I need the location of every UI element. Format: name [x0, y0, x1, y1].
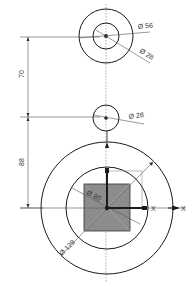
lower-vertical-dimension: 88 — [18, 158, 25, 166]
top-outer-diameter-label: Ø 56 — [137, 22, 153, 30]
x-axis-label-outer: X — [181, 205, 186, 212]
x-axis-label-inner: X — [151, 205, 156, 212]
technical-drawing: Ø 56 Ø 28 Ø 28 70 88 — [0, 0, 196, 287]
middle-center-point — [104, 116, 108, 120]
upper-vertical-dimension: 70 — [18, 70, 25, 78]
bottom-center-point — [105, 206, 109, 210]
